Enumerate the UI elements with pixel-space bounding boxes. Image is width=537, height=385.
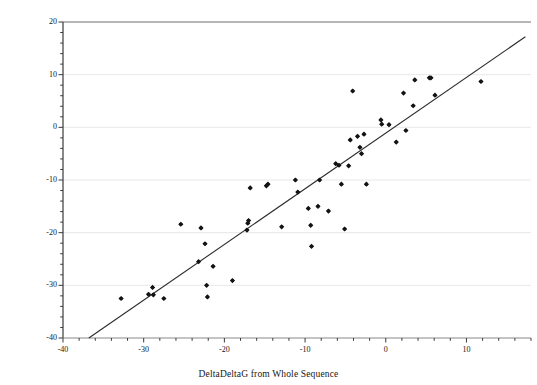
data-point-core bbox=[205, 284, 208, 287]
data-point-core bbox=[162, 297, 165, 300]
data-point-core bbox=[351, 89, 354, 92]
data-point-core bbox=[179, 223, 182, 226]
plot-canvas bbox=[0, 0, 537, 385]
data-point-core bbox=[307, 207, 310, 210]
data-point-core bbox=[199, 226, 202, 229]
data-point-group bbox=[118, 75, 483, 301]
data-point-core bbox=[413, 78, 416, 81]
data-point-core bbox=[349, 138, 352, 141]
data-point-core bbox=[362, 132, 365, 135]
data-point-core bbox=[327, 209, 330, 212]
data-point-core bbox=[280, 225, 283, 228]
data-point-core bbox=[247, 219, 250, 222]
scatter-plot-figure: Sum of UTR and CDS DeltaDelta-G DeltaDel… bbox=[0, 0, 537, 385]
data-point-core bbox=[296, 190, 299, 193]
x-tick-label: -40 bbox=[49, 345, 77, 354]
data-point-core bbox=[387, 123, 390, 126]
data-point-core bbox=[147, 293, 150, 296]
data-point-core bbox=[358, 146, 361, 149]
data-point-core bbox=[119, 297, 122, 300]
data-point-core bbox=[365, 183, 368, 186]
data-point-core bbox=[343, 227, 346, 230]
data-point-core bbox=[152, 293, 155, 296]
y-tick-label: 20 bbox=[29, 17, 57, 26]
data-point-core bbox=[294, 178, 297, 181]
data-point-core bbox=[245, 228, 248, 231]
data-point-core bbox=[395, 140, 398, 143]
data-point-core bbox=[231, 279, 234, 282]
data-point-core bbox=[340, 183, 343, 186]
y-tick-label: 0 bbox=[29, 122, 57, 131]
x-tick-label: 0 bbox=[372, 345, 400, 354]
data-point-core bbox=[360, 152, 363, 155]
data-point-core bbox=[206, 295, 209, 298]
data-point-core bbox=[197, 260, 200, 263]
data-point-core bbox=[379, 118, 382, 121]
data-point-core bbox=[433, 94, 436, 97]
trend-line bbox=[89, 37, 526, 338]
data-point-core bbox=[249, 186, 252, 189]
x-tick-label: -20 bbox=[210, 345, 238, 354]
data-point-core bbox=[266, 183, 269, 186]
x-tick-label: -30 bbox=[130, 345, 158, 354]
x-tick-label: 10 bbox=[452, 345, 480, 354]
data-point-core bbox=[356, 135, 359, 138]
data-point-core bbox=[211, 265, 214, 268]
y-tick-label: -10 bbox=[29, 175, 57, 184]
data-point-core bbox=[411, 104, 414, 107]
data-point-core bbox=[429, 76, 432, 79]
y-tick-label: 10 bbox=[29, 70, 57, 79]
data-point-core bbox=[347, 164, 350, 167]
data-point-core bbox=[310, 245, 313, 248]
data-point-core bbox=[337, 164, 340, 167]
data-point-core bbox=[479, 80, 482, 83]
data-point-core bbox=[151, 286, 154, 289]
data-point-core bbox=[402, 91, 405, 94]
y-tick-label: -30 bbox=[29, 280, 57, 289]
data-point-core bbox=[404, 129, 407, 132]
x-tick-label: -10 bbox=[291, 345, 319, 354]
x-axis-title: DeltaDeltaG from Whole Sequence bbox=[0, 369, 537, 379]
data-point-core bbox=[309, 224, 312, 227]
data-point-core bbox=[380, 122, 383, 125]
y-tick-label: -20 bbox=[29, 228, 57, 237]
data-point-core bbox=[318, 178, 321, 181]
y-tick-label: -40 bbox=[29, 333, 57, 342]
data-point-core bbox=[316, 205, 319, 208]
data-point-core bbox=[203, 242, 206, 245]
